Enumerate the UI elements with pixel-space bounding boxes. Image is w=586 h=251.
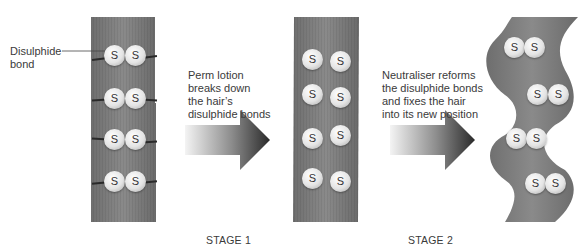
sulphur-atom: S bbox=[125, 129, 146, 150]
disulphide-bond-label: Disulphide bond bbox=[10, 45, 61, 71]
sulphur-atom: S bbox=[504, 37, 525, 58]
hair-strand-before bbox=[91, 17, 156, 222]
sulphur-atom: S bbox=[545, 173, 566, 194]
sulphur-atom: S bbox=[506, 128, 527, 149]
sulphur-atom: S bbox=[548, 84, 569, 105]
caption-line: the hair’s bbox=[188, 95, 271, 108]
stage-2-caption: Neutraliser reforms the disulphide bonds… bbox=[382, 69, 483, 121]
sulphur-atom: S bbox=[330, 171, 351, 192]
caption-line: Neutraliser reforms bbox=[382, 69, 483, 82]
sulphur-atom: S bbox=[526, 128, 547, 149]
sulphur-atom: S bbox=[125, 171, 146, 192]
callout-line-2: bond bbox=[10, 58, 61, 71]
caption-line: and fixes the hair bbox=[382, 95, 483, 108]
perm-diagram-canvas bbox=[0, 0, 586, 251]
sulphur-atom: S bbox=[527, 84, 548, 105]
hair-strand-broken bbox=[293, 17, 359, 222]
sulphur-atom: S bbox=[104, 88, 125, 109]
caption-line: Perm lotion bbox=[188, 69, 271, 82]
caption-line: breaks down bbox=[188, 82, 271, 95]
stage-1-caption: Perm lotion breaks down the hair’s disul… bbox=[188, 69, 271, 121]
sulphur-atom: S bbox=[330, 125, 351, 146]
sulphur-atom: S bbox=[302, 128, 323, 149]
sulphur-atom: S bbox=[302, 84, 323, 105]
sulphur-atom: S bbox=[330, 87, 351, 108]
sulphur-atom: S bbox=[524, 37, 545, 58]
caption-line: disulphide bonds bbox=[188, 108, 271, 121]
sulphur-atom: S bbox=[525, 173, 546, 194]
sulphur-atom: S bbox=[104, 171, 125, 192]
callout-line-1: Disulphide bbox=[10, 45, 61, 58]
sulphur-atom: S bbox=[302, 168, 323, 189]
caption-line: the disulphide bonds bbox=[382, 82, 483, 95]
sulphur-atom: S bbox=[330, 51, 351, 72]
sulphur-atom: S bbox=[125, 45, 146, 66]
sulphur-atom: S bbox=[125, 88, 146, 109]
stage-2-label: STAGE 2 bbox=[408, 234, 453, 246]
sulphur-atom: S bbox=[302, 49, 323, 70]
sulphur-atom: S bbox=[104, 129, 125, 150]
sulphur-atom: S bbox=[104, 45, 125, 66]
stage-1-label: STAGE 1 bbox=[206, 234, 251, 246]
caption-line: into its new position bbox=[382, 108, 483, 121]
